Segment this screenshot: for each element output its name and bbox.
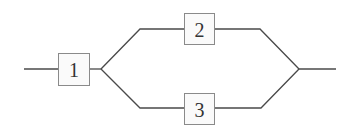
block-2: 2 xyxy=(185,14,215,45)
reliability-diagram: 1 2 3 xyxy=(0,0,359,132)
block-1: 1 xyxy=(59,54,90,86)
lower-branch-out-wire xyxy=(215,69,299,108)
lower-branch-in-wire xyxy=(101,69,184,108)
block-3: 3 xyxy=(185,94,215,125)
block-2-label: 2 xyxy=(195,19,205,41)
block-3-label: 3 xyxy=(195,99,205,121)
upper-branch-in-wire xyxy=(101,29,184,69)
upper-branch-out-wire xyxy=(215,29,299,69)
block-1-label: 1 xyxy=(69,59,79,81)
